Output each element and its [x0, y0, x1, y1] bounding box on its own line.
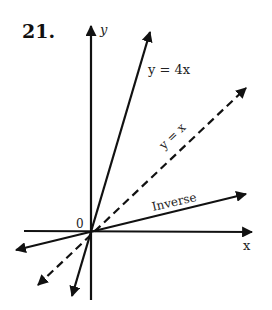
x-axis — [24, 231, 252, 232]
label-y-equals-4x: y = 4x — [147, 62, 191, 77]
line-y-equals-4x — [72, 32, 150, 296]
origin-label: 0 — [76, 217, 84, 231]
x-axis-label: x — [243, 238, 251, 253]
line-inverse — [16, 194, 246, 250]
label-inverse: Inverse — [151, 190, 198, 214]
graph: y x 0 y = 4x y = x Inverse — [0, 0, 272, 310]
line-y-equals-x — [38, 88, 246, 285]
y-axis-label: y — [99, 22, 108, 37]
